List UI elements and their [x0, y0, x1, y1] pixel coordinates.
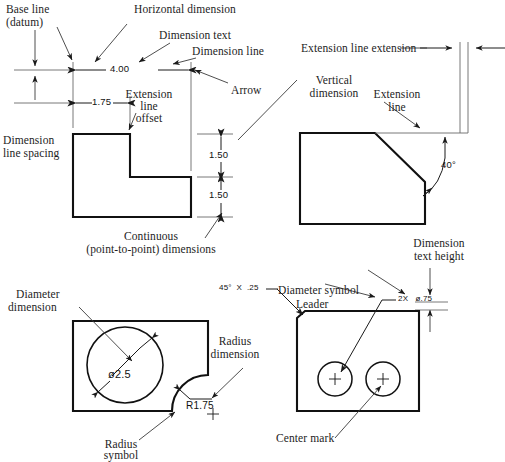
dimension-value-1-50-upper: 1.50	[209, 150, 228, 160]
callout-extension-line-offset-line3: offset	[120, 112, 178, 125]
fig-top-right-geometry	[300, 133, 425, 224]
chamfered-plate-outline	[297, 311, 419, 411]
leader-radius-dimension	[212, 368, 243, 398]
dimension-value-4-00: 4.00	[110, 64, 154, 74]
leader-dimension-line	[173, 58, 196, 64]
callout-arrow: Arrow	[231, 84, 262, 97]
fig-bottom-left-leaders	[79, 307, 243, 440]
callout-dimension-line-spacing-line2: line spacing	[3, 147, 59, 160]
callout-diameter-symbol: Diameter symbol	[278, 284, 359, 297]
leader-diameter-symbol	[368, 270, 405, 294]
dimension-value-radius-1-75: R1.75	[186, 401, 214, 411]
callout-vertical-dimension-line1: Vertical	[296, 74, 372, 87]
callout-extension-line-offset-line1: Extension	[120, 88, 178, 101]
center-marks	[329, 373, 389, 385]
leader-horizontal-dimension	[95, 24, 127, 62]
dimension-value-chamfer: 45° X .25	[219, 283, 259, 293]
dim-diameter-arrow-upper	[140, 338, 152, 348]
leader-dimension-text	[139, 43, 170, 62]
callout-leader: Leader	[296, 298, 329, 311]
dim-radius-leader	[180, 390, 190, 399]
callout-dimension-text: Dimension text	[159, 29, 231, 42]
leader-radius-symbol	[139, 412, 175, 440]
callout-horizontal-dimension: Horizontal dimension	[134, 3, 236, 16]
callout-center-mark: Center mark	[276, 432, 334, 445]
callout-diameter-dimension-line2: dimension	[8, 301, 57, 314]
callout-extension-line-line1: Extension	[366, 88, 428, 101]
callout-radius-dimension-line2: dimension	[196, 348, 274, 361]
angled-shape-outline	[300, 133, 425, 224]
callout-continuous-line2: (point-to-point) dimensions	[60, 243, 242, 256]
callout-continuous-line1: Continuous	[96, 230, 206, 243]
callout-base-line-line2: (datum)	[6, 16, 43, 29]
dimension-value-1-75: 1.75	[92, 97, 114, 107]
callout-dimension-line: Dimension line	[192, 45, 264, 58]
callout-extension-line-extension: Extension line extension	[301, 42, 416, 55]
callout-base-line-line1: Base line	[6, 3, 49, 16]
dimension-value-angle-40: 40°	[441, 160, 456, 170]
callout-dimension-line-spacing-line1: Dimension	[3, 134, 54, 147]
fig-top-left-geometry	[73, 134, 191, 217]
callout-dimension-text-height-line1: Dimension	[400, 237, 478, 250]
leader-diameter-dimension	[79, 307, 132, 361]
callout-diameter-dimension-line1: Diameter	[16, 288, 60, 301]
callout-dimension-text-height-line2: text height	[400, 250, 478, 263]
dimension-value-diameter-2-5: ø2.5	[108, 369, 131, 379]
callout-extension-line-line2: line	[366, 101, 428, 114]
fig-bottom-right-geometry	[297, 311, 419, 411]
leader-arrow	[195, 70, 228, 83]
callout-vertical-dimension-line2: dimension	[296, 87, 372, 100]
dimension-value-2x-diameter: 2X ø.75	[398, 294, 432, 304]
callout-radius-dimension-line1: Radius	[196, 335, 274, 348]
fig-bottom-right-leaders	[266, 289, 396, 372]
fig-top-right-dimension-lines	[420, 48, 505, 196]
leader-base-line	[57, 27, 72, 60]
callout-extension-line-offset-line2: line	[120, 100, 178, 113]
dim-diameter-arrow-lower	[98, 381, 110, 392]
l-shape-outline	[73, 134, 191, 217]
dimension-value-1-50-lower: 1.50	[209, 190, 228, 200]
callout-radius-symbol-line2: symbol	[86, 449, 156, 462]
